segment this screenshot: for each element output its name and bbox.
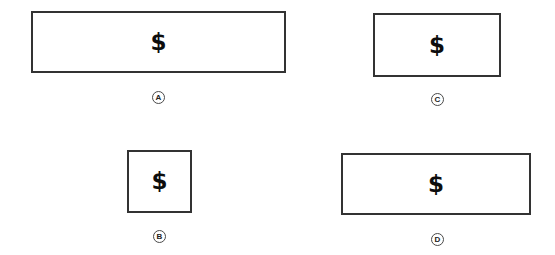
option-label-b-letter: B — [157, 233, 163, 241]
option-label-d: D — [431, 233, 444, 246]
option-label-c: C — [431, 93, 444, 106]
option-label-a: A — [152, 91, 165, 104]
figure-canvas: $ A $ B $ C $ D — [0, 0, 555, 255]
dollar-sign-icon: $ — [428, 173, 444, 196]
option-label-a-letter: A — [156, 94, 162, 102]
dollar-sign-icon: $ — [429, 34, 445, 57]
rectangle-c[interactable]: $ — [373, 13, 501, 77]
rectangle-a[interactable]: $ — [31, 11, 286, 73]
rectangle-b[interactable]: $ — [127, 150, 192, 213]
option-label-d-letter: D — [435, 236, 441, 244]
option-label-b: B — [153, 230, 166, 243]
dollar-sign-icon: $ — [150, 31, 166, 54]
option-label-c-letter: C — [435, 96, 441, 104]
dollar-sign-icon: $ — [151, 170, 167, 193]
rectangle-d[interactable]: $ — [341, 153, 531, 215]
